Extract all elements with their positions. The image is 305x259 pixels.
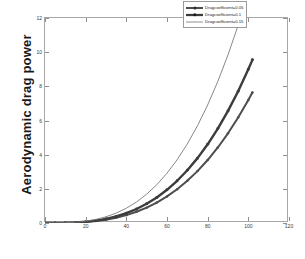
series-marker	[206, 143, 209, 146]
x-tick-mark	[126, 18, 127, 22]
legend-label: Dragcoefficient=0.05	[205, 4, 243, 11]
y-tick-mark	[283, 18, 287, 19]
y-axis-title: Aerodynamic drag power	[19, 15, 34, 215]
y-tick-mark	[283, 52, 287, 53]
series-marker	[176, 188, 178, 190]
x-tick-mark	[248, 18, 249, 22]
x-tick-label: 120	[285, 223, 293, 229]
x-tick-mark	[167, 18, 168, 22]
series-line	[45, 25, 238, 223]
y-tick-mark	[45, 86, 49, 87]
series-marker	[227, 109, 230, 112]
series-marker	[166, 188, 169, 191]
series-marker	[176, 179, 179, 182]
series-marker	[135, 211, 137, 213]
x-tick-label: 60	[164, 223, 170, 229]
series-marker	[186, 180, 188, 182]
legend-circle-marker-icon	[193, 6, 196, 9]
legend-item[interactable]: Dragcoefficient=0.05	[186, 4, 243, 11]
series-marker	[237, 116, 239, 118]
legend-item[interactable]: Dragcoefficient=0.1	[186, 11, 243, 18]
x-tick-mark	[45, 18, 46, 22]
series-marker	[135, 208, 138, 211]
legend: Dragcoefficient=0.05 Dragcoefficient=0.1…	[183, 1, 247, 28]
legend-swatch-series-2	[186, 18, 203, 25]
y-tick-label: 8	[39, 83, 42, 89]
x-tick-label: 0	[44, 223, 47, 229]
y-tick-label: 6	[39, 118, 42, 124]
figure-canvas: Aerodynamic drag power 02468101202040608…	[0, 0, 305, 259]
series-marker	[115, 215, 118, 218]
y-tick-label: 10	[36, 49, 42, 55]
series-marker	[145, 202, 148, 205]
y-tick-mark	[45, 52, 49, 53]
legend-item[interactable]: Dragcoefficient=0.15	[186, 18, 243, 25]
plot-area-svg	[45, 18, 289, 223]
legend-label: Dragcoefficient=0.15	[205, 18, 243, 25]
y-tick-mark	[283, 86, 287, 87]
y-tick-mark	[45, 189, 49, 190]
series-marker	[251, 91, 253, 93]
y-tick-label: 4	[39, 152, 42, 158]
series-marker	[196, 170, 198, 172]
plot-axes: 024681012020406080100120	[44, 17, 288, 222]
x-tick-mark	[289, 217, 290, 221]
x-tick-mark	[86, 217, 87, 221]
y-tick-label: 12	[36, 15, 42, 21]
series-marker	[217, 146, 219, 148]
series-marker	[156, 201, 158, 203]
series-marker	[227, 132, 229, 134]
series-marker	[155, 196, 158, 199]
series-marker	[166, 195, 168, 197]
legend-swatch-series-0	[186, 4, 203, 11]
series-marker	[237, 90, 240, 93]
y-tick-mark	[283, 121, 287, 122]
x-tick-mark	[167, 217, 168, 221]
y-tick-mark	[45, 155, 49, 156]
y-tick-label: 0	[39, 220, 42, 226]
y-tick-label: 2	[39, 186, 42, 192]
series-marker	[145, 206, 147, 208]
x-tick-mark	[126, 217, 127, 221]
x-tick-mark	[86, 18, 87, 22]
x-tick-label: 20	[83, 223, 89, 229]
x-tick-label: 100	[244, 223, 252, 229]
legend-line-icon	[186, 20, 203, 23]
x-tick-label: 40	[124, 223, 130, 229]
x-tick-mark	[208, 217, 209, 221]
series-marker	[125, 212, 128, 215]
series-marker	[247, 99, 249, 101]
x-tick-label: 80	[205, 223, 211, 229]
series-marker	[251, 58, 254, 61]
y-tick-mark	[45, 121, 49, 122]
x-tick-mark	[289, 18, 290, 22]
series-marker	[196, 157, 199, 160]
y-tick-mark	[283, 189, 287, 190]
y-tick-mark	[283, 155, 287, 156]
series-marker	[186, 169, 189, 172]
series-marker	[216, 127, 219, 130]
series-marker	[206, 159, 208, 161]
x-tick-mark	[248, 217, 249, 221]
x-tick-mark	[45, 217, 46, 221]
series-marker	[105, 217, 108, 220]
legend-swatch-series-1	[186, 11, 203, 18]
series-marker	[247, 68, 250, 71]
legend-label: Dragcoefficient=0.1	[205, 11, 241, 18]
